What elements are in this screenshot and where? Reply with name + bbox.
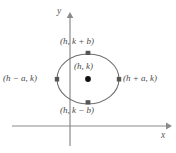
y-axis-label: y xyxy=(57,7,61,17)
center-point-marker xyxy=(85,76,91,82)
marker-bottom-co-vertex xyxy=(86,100,91,104)
label-right-vertex: (h + a, k) xyxy=(123,74,157,83)
label-bottom-co-vertex: (h, k − b) xyxy=(60,106,94,115)
marker-right-vertex xyxy=(117,77,121,82)
marker-top-co-vertex xyxy=(86,51,91,55)
x-axis xyxy=(12,123,172,130)
label-center: (h, k) xyxy=(74,62,93,71)
ellipse-diagram: (h, k + b) (h, k) (h − a, k) (h + a, k) … xyxy=(0,0,176,153)
label-top-co-vertex: (h, k + b) xyxy=(60,37,94,46)
label-left-vertex: (h − a, k) xyxy=(3,74,37,83)
x-axis-label: x xyxy=(161,131,165,141)
marker-left-vertex xyxy=(55,77,59,82)
